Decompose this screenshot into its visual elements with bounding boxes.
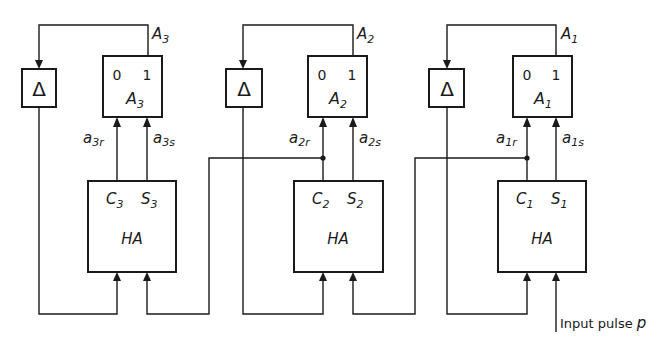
flipflop-a2: 0 1 A2 (308, 56, 367, 117)
arrow-into-ha1-left (523, 272, 531, 281)
input-label-a3s: a3s (153, 129, 175, 149)
counter-diagram: Δ 0 1 A3 A3 a3r a3s C3 S3 HA (0, 0, 663, 344)
arrow-a1r (523, 117, 531, 127)
arrow-into-delay-3 (35, 60, 43, 69)
half-adder-1: C1 S1 HA (498, 181, 586, 272)
input-label-a2s: a2s (359, 129, 381, 149)
input-label-a1s: a1s (562, 129, 584, 149)
input-pulse-label: Input pulse p (560, 314, 646, 332)
arrow-into-ha2-left (319, 272, 327, 281)
junction-dot-2 (320, 155, 325, 160)
arrow-a1s (552, 117, 560, 127)
state-0-label: 0 (113, 67, 122, 83)
arrow-a2s (349, 117, 357, 127)
state-1-label: 1 (143, 67, 152, 83)
ha-label: HA (121, 230, 143, 248)
stage-3: Δ 0 1 A3 A3 a3r a3s C3 S3 HA (22, 25, 323, 314)
delay-element-2: Δ (226, 69, 262, 107)
output-label-a2: A2 (356, 25, 374, 46)
ha-label: HA (531, 230, 553, 248)
arrow-a2r (319, 117, 327, 127)
state-1-label: 1 (348, 67, 357, 83)
state-1-label: 1 (552, 67, 561, 83)
state-0-label: 0 (318, 67, 327, 83)
delta-icon: Δ (440, 77, 454, 101)
input-label-a2r: a2r (289, 129, 311, 149)
ha-label: HA (327, 230, 349, 248)
output-label-a3: A3 (151, 25, 169, 46)
output-label-a1: A1 (560, 25, 578, 46)
half-adder-2: C2 S2 HA (294, 181, 383, 272)
arrow-into-delay-2 (239, 60, 247, 69)
delta-icon: Δ (237, 77, 251, 101)
arrow-a3r (113, 117, 121, 127)
junction-dot-1 (524, 155, 529, 160)
half-adder-3: C3 S3 HA (88, 181, 176, 272)
stage-1: Δ 0 1 A1 A1 a1r a1s C1 S1 HA Input pulse… (429, 25, 646, 332)
arrow-a3s (143, 117, 151, 127)
arrow-into-ha3-right (143, 272, 151, 281)
delta-icon: Δ (32, 77, 46, 101)
arrow-into-ha3-left (113, 272, 121, 281)
flipflop-a3: 0 1 A3 (103, 56, 162, 117)
arrow-into-ha1-right (552, 272, 560, 281)
input-label-a1r: a1r (496, 129, 518, 149)
input-label-a3r: a3r (83, 129, 105, 149)
delay-element-1: Δ (429, 69, 464, 107)
flipflop-a1: 0 1 A1 (513, 56, 572, 117)
arrow-into-delay-1 (443, 60, 451, 69)
stage-2: Δ 0 1 A2 A2 a2r a2s C2 S2 HA (226, 25, 527, 314)
state-0-label: 0 (523, 67, 532, 83)
delay-element-3: Δ (22, 69, 56, 107)
arrow-into-ha2-right (349, 272, 357, 281)
